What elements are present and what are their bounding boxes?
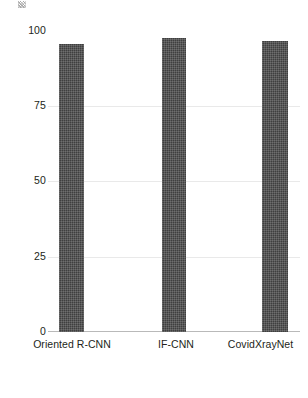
bar-oriented-r-cnn — [59, 44, 84, 332]
y-axis-tick-label-50: 50 — [6, 175, 46, 186]
scan-artifact-smudge — [18, 1, 26, 8]
y-axis-tick-label-75: 75 — [6, 100, 46, 111]
bar-if-cnn — [162, 38, 186, 332]
x-axis-tick-label-oriented-r-cnn: Oriented R-CNN — [22, 338, 122, 350]
y-axis-tick-label-0: 0 — [6, 326, 46, 337]
y-axis-tick-label-25: 25 — [6, 251, 46, 262]
x-axis-tick-label-covidxraynet: CovidXrayNet — [213, 338, 308, 350]
bar-chart-figure: 100 75 50 25 0 Oriented R-CNN IF-CNN Cov… — [0, 0, 308, 398]
bar-covidxraynet — [262, 41, 288, 332]
x-axis-tick-label-if-cnn: IF-CNN — [126, 338, 226, 350]
plot-area — [48, 31, 300, 332]
y-axis-tick-label-100: 100 — [6, 25, 46, 36]
